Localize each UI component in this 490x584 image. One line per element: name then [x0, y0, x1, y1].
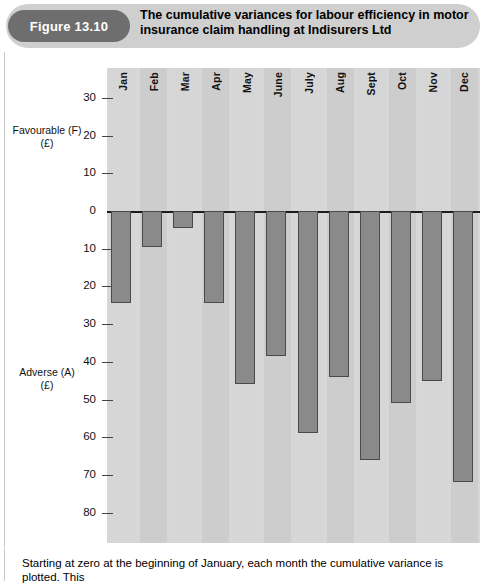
x-axis-label-june: June: [272, 72, 284, 97]
y-axis-tick-mark: [102, 400, 113, 401]
favourable-axis-caption-line1: Favourable (F): [0, 124, 102, 137]
figure-badge-label: Figure 13.10: [30, 19, 108, 34]
y-axis-tick-label: 20: [66, 279, 96, 291]
bar-june: [266, 211, 286, 356]
y-axis-tick-label: 70: [66, 468, 96, 480]
y-axis-tick-mark: [102, 136, 113, 137]
x-axis-label-sept: Sept: [365, 72, 377, 96]
figure-badge: Figure 13.10: [8, 10, 130, 42]
adverse-axis-caption-line1: Adverse (A): [0, 366, 102, 379]
plot-column-jan: [109, 68, 136, 543]
favourable-axis-caption: Favourable (F)(£): [0, 124, 102, 150]
bar-may: [235, 211, 255, 384]
y-axis-tick-label: 50: [66, 393, 96, 405]
left-divider-lower: [4, 548, 5, 581]
y-axis-tick-mark: [102, 362, 113, 363]
bar-oct: [391, 211, 411, 403]
bar-feb: [142, 211, 162, 247]
x-axis-label-mar: Mar: [179, 72, 191, 91]
x-axis-label-feb: Feb: [148, 72, 160, 91]
adverse-axis-caption: Adverse (A)(£): [0, 366, 102, 392]
bar-aug: [329, 211, 349, 377]
bar-nov: [422, 211, 442, 381]
bar-dec: [453, 211, 473, 482]
favourable-axis-caption-line2: (£): [0, 137, 102, 150]
caption-paragraph: Starting at zero at the beginning of Jan…: [22, 556, 482, 584]
figure-header: Figure 13.10 The cumulative variances fo…: [0, 0, 490, 52]
x-axis-label-may: May: [241, 72, 253, 93]
bar-apr: [204, 211, 224, 303]
y-axis-tick-mark: [102, 437, 113, 438]
bar-july: [298, 211, 318, 433]
y-axis-tick-label: 40: [66, 355, 96, 367]
y-axis-tick-label: 30: [66, 91, 96, 103]
y-axis-tick-label: 60: [66, 430, 96, 442]
bar-jan: [111, 211, 131, 303]
y-axis-tick-label: 10: [66, 242, 96, 254]
y-axis-tick-label: 30: [66, 317, 96, 329]
y-axis-tick-label: 80: [66, 506, 96, 518]
bar-mar: [173, 211, 193, 228]
plot-column-mar: [171, 68, 198, 543]
x-axis-label-dec: Dec: [458, 72, 470, 92]
adverse-axis-caption-line2: (£): [0, 379, 102, 392]
figure-title: The cumulative variances for labour effi…: [140, 8, 470, 38]
plot-column-apr: [202, 68, 229, 543]
y-axis-tick-mark: [102, 324, 113, 325]
x-axis-label-jan: Jan: [117, 72, 129, 91]
x-axis-label-oct: Oct: [396, 72, 408, 90]
x-axis-label-apr: Apr: [210, 72, 222, 91]
y-axis-tick-mark: [102, 98, 113, 99]
bar-sept: [360, 211, 380, 460]
y-axis-tick-label: 10: [66, 166, 96, 178]
x-axis-label-july: July: [303, 72, 315, 94]
x-axis-label-nov: Nov: [427, 72, 439, 92]
y-axis-tick-mark: [102, 173, 113, 174]
y-axis-tick-mark: [102, 513, 113, 514]
plot-column-feb: [140, 68, 167, 543]
y-axis-tick-mark: [102, 475, 113, 476]
x-axis-label-aug: Aug: [334, 72, 346, 93]
y-axis-tick-label: 0: [66, 204, 96, 216]
